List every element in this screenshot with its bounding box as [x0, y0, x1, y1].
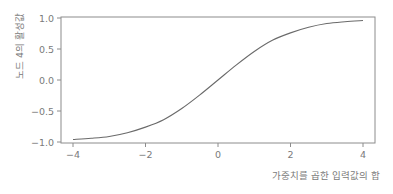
x-tick-label: −4: [66, 149, 80, 160]
x-tick-label: −2: [138, 149, 152, 160]
y-axis-label-container: 노드 4의 활성값: [12, 12, 26, 80]
y-axis-label: 노드 4의 활성값: [12, 13, 26, 79]
x-tick-label: 2: [287, 149, 293, 160]
y-tick-label: 0.5: [39, 44, 54, 55]
y-tick-label: 0.0: [39, 75, 54, 86]
y-tick-label: 1.0: [39, 13, 54, 24]
x-axis-ticks: −4−2024: [66, 143, 366, 160]
x-tick-label: 4: [360, 149, 366, 160]
chart: −4−2024 1.00.50.0−0.5−1.0: [0, 0, 393, 194]
y-axis-ticks: 1.00.50.0−0.5−1.0: [31, 13, 61, 148]
data-series: [73, 20, 363, 139]
activation-curve: [73, 20, 363, 139]
x-axis-label: 가중치를 곱한 입력값의 합: [272, 168, 380, 182]
y-tick-label: −0.5: [31, 106, 54, 117]
y-tick-label: −1.0: [31, 137, 54, 148]
x-tick-label: 0: [215, 149, 221, 160]
